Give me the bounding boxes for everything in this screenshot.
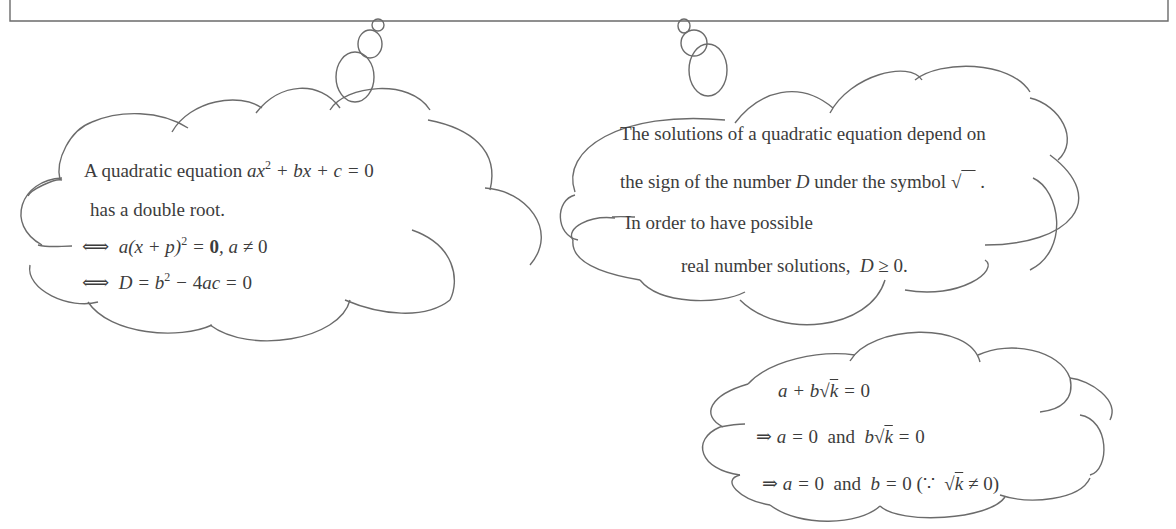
discriminant-condition: D ≥ 0. <box>855 255 908 276</box>
cloud-bottom-line-2: ⇒ a = 0 and b√k = 0 <box>756 427 925 446</box>
cloud-bottom-line-1: a + b√k = 0 <box>778 381 870 400</box>
sqrt-symbol-text: under the symbol √ . <box>809 171 985 192</box>
top-box-border <box>10 0 1168 21</box>
cloud-left-line-2: has a double root. <box>90 200 225 219</box>
cloud-right-line-4: real number solutions, D ≥ 0. <box>681 256 908 275</box>
discriminant-variable: D <box>796 171 810 192</box>
cloud-left-line-4: ⟺ D = b2 − 4ac = 0 <box>82 273 252 292</box>
cloud-left-line-3: ⟺ a(x + p)2 = 0, a ≠ 0 <box>82 237 267 256</box>
cloud-right-line-3: In order to have possible <box>625 213 813 232</box>
cloud-right-line-2-prefix: the sign of the number <box>620 171 796 192</box>
cloud-left-line-1-text: A quadratic equation <box>84 160 247 181</box>
illustration-canvas <box>0 0 1176 529</box>
cloud-right-line-1: The solutions of a quadratic equation de… <box>620 124 986 143</box>
iff-symbol: ⟺ <box>82 272 109 293</box>
cloud-right-outline <box>560 66 1078 324</box>
cloud-right-line-2: the sign of the number D under the symbo… <box>620 172 985 191</box>
cloud-left-line-1: A quadratic equation ax2 + bx + c = 0 <box>84 161 374 180</box>
discriminant-zero: D = b2 − 4ac = 0 <box>114 272 252 293</box>
thought-bubble-large <box>689 44 727 96</box>
cloud-bottom-line-3: ⇒ a = 0 and b = 0 (∵ √k ≠ 0) <box>762 474 999 493</box>
thought-bubble-large <box>336 52 374 102</box>
iff-symbol: ⟺ <box>82 236 109 257</box>
cloud-right-line-4-prefix: real number solutions, <box>681 255 855 276</box>
quadratic-equation-formula: ax2 + bx + c = 0 <box>247 160 374 181</box>
double-root-factor-form: a(x + p)2 = 0, a ≠ 0 <box>114 236 267 257</box>
